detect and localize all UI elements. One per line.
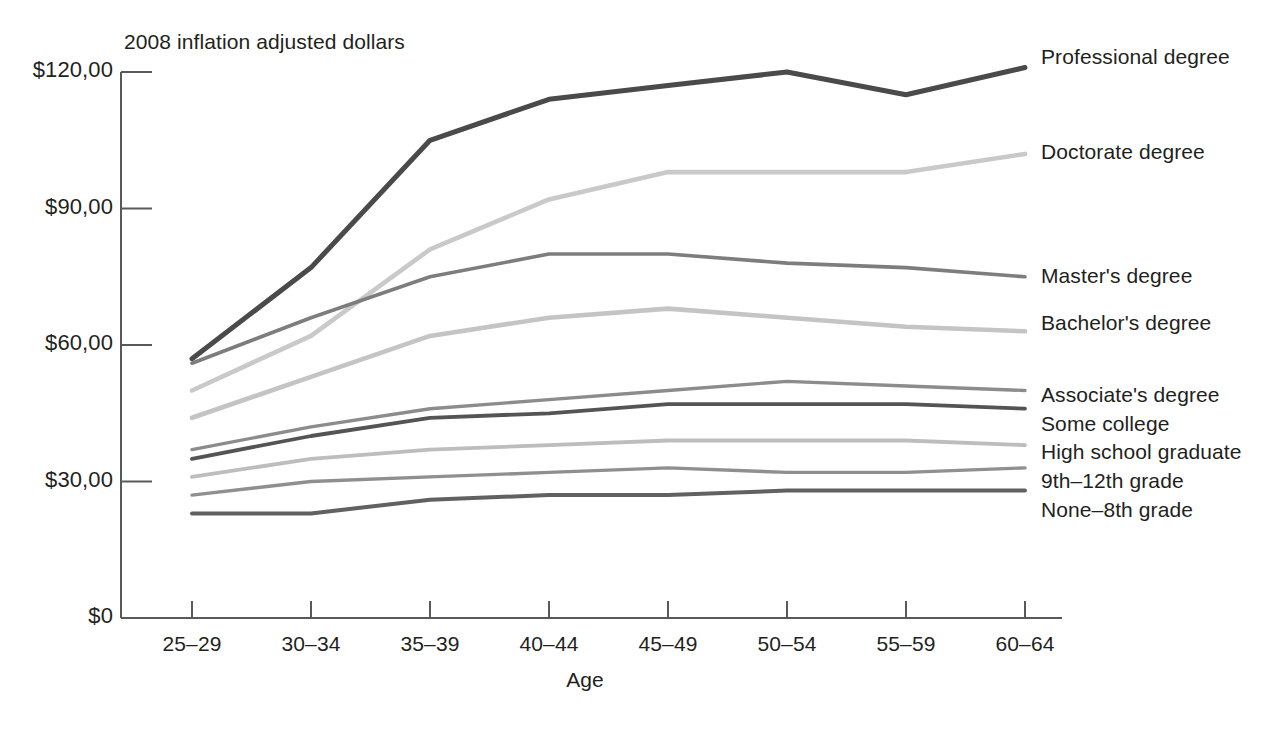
y-axis-tick-label: $0: [0, 603, 113, 629]
series-line: [192, 491, 1025, 514]
axis-layer: [121, 72, 1062, 618]
x-axis-tick-label: 45–49: [608, 632, 728, 656]
series-label: Some college: [1041, 412, 1169, 436]
line-chart-canvas: [0, 0, 1274, 738]
series-label: Associate's degree: [1041, 383, 1220, 407]
series-label: None–8th grade: [1041, 498, 1193, 522]
y-axis-tick-label: $90,00: [0, 194, 113, 220]
series-label: Doctorate degree: [1041, 140, 1205, 164]
chart-title: 2008 inflation adjusted dollars: [124, 30, 405, 54]
y-axis-tick-label: $30,00: [0, 467, 113, 493]
x-axis-tick-label: 35–39: [370, 632, 490, 656]
series-line: [192, 404, 1025, 459]
series-line: [192, 154, 1025, 391]
x-axis-tick-label: 30–34: [251, 632, 371, 656]
series-label: High school graduate: [1041, 440, 1241, 464]
series-line: [192, 309, 1025, 418]
series-label: Bachelor's degree: [1041, 311, 1211, 335]
series-line: [192, 254, 1025, 363]
x-axis-tick-label: 50–54: [727, 632, 847, 656]
chart-container: 2008 inflation adjusted dollars $120,00$…: [0, 0, 1274, 738]
y-axis-tick-label: $120,00: [0, 57, 113, 83]
x-axis-tick-label: 25–29: [132, 632, 252, 656]
x-axis-title: Age: [505, 668, 665, 692]
x-axis-tick-label: 60–64: [965, 632, 1085, 656]
x-axis-tick-label: 55–59: [846, 632, 966, 656]
series-label: 9th–12th grade: [1041, 469, 1184, 493]
x-axis-tick-label: 40–44: [489, 632, 609, 656]
series-label: Professional degree: [1041, 45, 1230, 69]
series-lines-layer: [192, 68, 1025, 514]
y-axis-tick-label: $60,00: [0, 330, 113, 356]
series-label: Master's degree: [1041, 264, 1192, 288]
